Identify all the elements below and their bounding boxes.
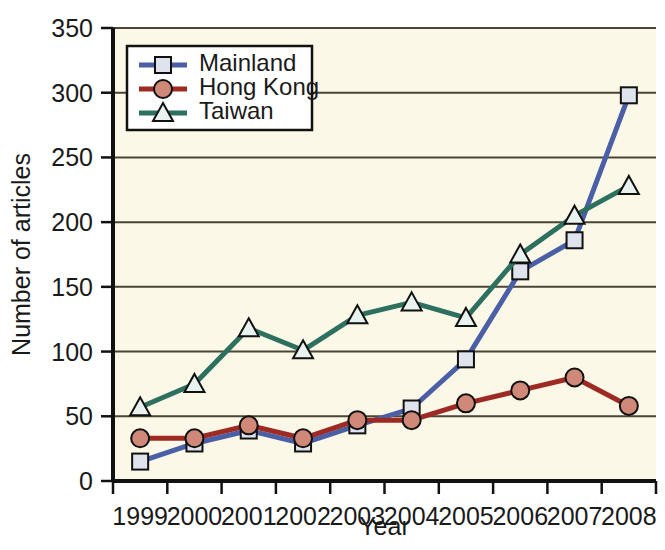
y-tick-label: 100 xyxy=(51,338,93,366)
data-point xyxy=(511,381,529,399)
legend-swatch-marker xyxy=(154,80,172,98)
chart-legend: MainlandHong KongTaiwan xyxy=(127,46,319,130)
y-tick-label: 250 xyxy=(51,143,93,171)
line-chart: 050100150200250300350 199920002001200220… xyxy=(0,0,665,550)
y-tick-label: 0 xyxy=(79,467,93,495)
legend-swatch-marker xyxy=(155,57,171,73)
legend-label: Taiwan xyxy=(199,97,274,124)
x-tick-label: 2000 xyxy=(167,502,223,530)
y-axis-ticks: 050100150200250300350 xyxy=(51,14,113,495)
data-point xyxy=(457,394,475,412)
data-point xyxy=(403,411,421,429)
legend-label: Mainland xyxy=(199,49,296,76)
y-tick-label: 200 xyxy=(51,208,93,236)
data-point xyxy=(512,263,528,279)
data-point xyxy=(185,429,203,447)
x-axis-title: Year xyxy=(359,512,410,540)
data-point xyxy=(621,87,637,103)
legend-label: Hong Kong xyxy=(199,73,319,100)
data-point xyxy=(240,416,258,434)
chart-canvas: 050100150200250300350 199920002001200220… xyxy=(0,0,665,550)
x-tick-label: 2002 xyxy=(275,502,331,530)
data-point xyxy=(620,397,638,415)
y-axis-title: Number of articles xyxy=(7,153,35,356)
x-tick-label: 2005 xyxy=(438,502,494,530)
x-tick-label: 2001 xyxy=(221,502,277,530)
data-point xyxy=(567,232,583,248)
data-point xyxy=(132,454,148,470)
y-tick-label: 50 xyxy=(65,402,93,430)
x-tick-label: 2008 xyxy=(601,502,657,530)
x-tick-label: 2007 xyxy=(547,502,603,530)
data-point xyxy=(566,368,584,386)
data-point xyxy=(348,411,366,429)
data-point xyxy=(131,429,149,447)
data-point xyxy=(294,429,312,447)
x-tick-label: 1999 xyxy=(112,502,168,530)
y-tick-label: 350 xyxy=(51,14,93,42)
y-tick-label: 150 xyxy=(51,273,93,301)
data-point xyxy=(458,351,474,367)
x-tick-label: 2006 xyxy=(492,502,548,530)
y-tick-label: 300 xyxy=(51,79,93,107)
